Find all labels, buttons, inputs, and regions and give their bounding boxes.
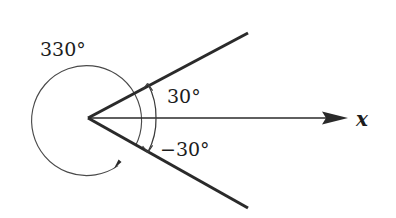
x-axis-group: [88, 112, 348, 125]
arc-330-arrowhead: [114, 160, 122, 169]
label-minus-30: −30°: [160, 138, 210, 160]
angle-diagram: 330° 30° −30° x: [0, 0, 396, 218]
label-30: 30°: [167, 85, 201, 107]
label-x-axis: x: [355, 107, 369, 131]
arc-330-path: [32, 66, 142, 176]
label-330: 330°: [40, 38, 86, 60]
arc-minus-30-group: [143, 118, 156, 153]
arc-330-group: [32, 66, 142, 176]
terminal-ray-lower: [88, 118, 248, 208]
